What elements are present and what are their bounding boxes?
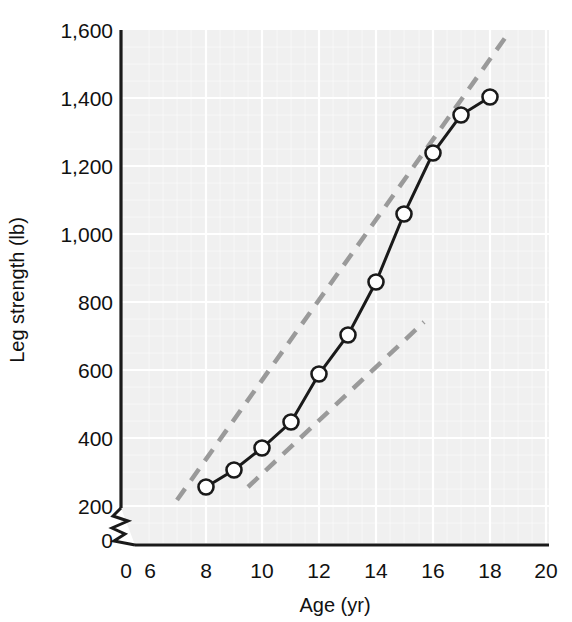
- x-tick-label: 12: [307, 559, 330, 582]
- data-point[interactable]: [454, 108, 469, 123]
- x-tick-label: 8: [200, 559, 212, 582]
- y-tick-label: 1,400: [60, 87, 113, 110]
- y-tick-label-zero: 0: [101, 529, 113, 552]
- x-tick-label-zero: 0: [120, 559, 132, 582]
- y-tick-label: 1,600: [60, 19, 113, 42]
- y-tick-label: 1,200: [60, 155, 113, 178]
- x-tick-label: 18: [478, 559, 501, 582]
- y-axis-title: Leg strength (lb): [6, 217, 28, 363]
- data-point[interactable]: [397, 207, 412, 222]
- y-axis-tick-labels: 1,600 1,400 1,200 1,000 800 600 400 200 …: [60, 19, 113, 552]
- data-point[interactable]: [483, 90, 498, 105]
- x-axis-tick-labels: 0 6 8 10 12 14 16 18 20: [120, 559, 558, 582]
- y-tick-label: 400: [78, 427, 113, 450]
- leg-strength-vs-age-chart: 1,600 1,400 1,200 1,000 800 600 400 200 …: [0, 0, 572, 622]
- data-point[interactable]: [426, 146, 441, 161]
- chart-figure: 1,600 1,400 1,200 1,000 800 600 400 200 …: [0, 0, 572, 622]
- x-tick-label: 14: [364, 559, 388, 582]
- plot-area-background: [121, 30, 549, 543]
- data-point[interactable]: [369, 275, 384, 290]
- y-tick-label: 200: [78, 495, 113, 518]
- y-tick-label: 1,000: [60, 223, 113, 246]
- data-point[interactable]: [312, 367, 327, 382]
- x-axis-title: Age (yr): [299, 594, 370, 616]
- data-point[interactable]: [284, 415, 299, 430]
- data-point[interactable]: [199, 480, 214, 495]
- data-point[interactable]: [255, 441, 270, 456]
- x-tick-label: 6: [144, 559, 156, 582]
- x-tick-label: 10: [250, 559, 273, 582]
- y-tick-label: 800: [78, 291, 113, 314]
- y-tick-label: 600: [78, 359, 113, 382]
- data-point[interactable]: [227, 463, 242, 478]
- data-point[interactable]: [341, 328, 356, 343]
- x-tick-label: 20: [534, 559, 557, 582]
- x-tick-label: 16: [421, 559, 444, 582]
